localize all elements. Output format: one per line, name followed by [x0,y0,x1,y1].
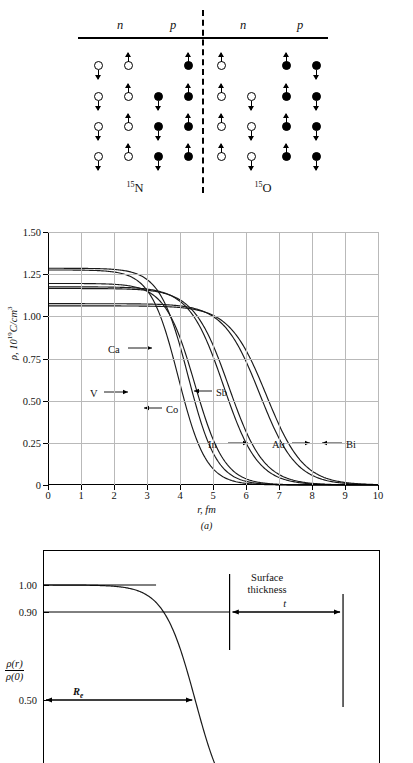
y-tick-label: 0.75 [23,353,41,364]
column-header-p-right: p [285,18,315,33]
y-tick-b [43,700,49,701]
nucleon-o15-p-2-1 [308,114,326,140]
spin-arrow-up-icon [125,52,131,57]
spin-arrow-up-icon [218,83,224,88]
nucleon-o15-n-2-0 [213,114,231,140]
spin-arrow-up-icon [283,83,289,88]
proton-icon [282,122,291,131]
neutron-icon [94,122,103,131]
x-tick-label: 10 [373,490,384,501]
nucleon-o15-n-3-1 [243,144,261,170]
spin-arrow-up-icon [283,143,289,148]
nucleon-o15-p-3-1 [308,144,326,170]
column-header-p-left: p [158,18,188,33]
spin-arrow-up-icon [185,113,191,118]
nucleon-shell-diagram: n p n p 15N 15O [0,0,413,212]
spin-arrow-down-icon [155,166,161,171]
spin-arrow-up-icon [185,83,191,88]
y-tick-label: 0.25 [23,437,41,448]
proton-icon [154,122,163,131]
spin-arrow-down-icon [95,106,101,111]
y-axis-title-b: ρ(r) ρ(0) [5,658,24,683]
gridline-vertical [378,232,379,485]
spin-arrow-down-icon [248,166,254,171]
y-axis-title-b-den: ρ(0) [6,671,23,682]
gridline-horizontal [48,316,378,317]
panel-a-caption: (a) [0,520,413,531]
curve-label-Ca: Ca [108,344,120,355]
proton-icon [312,61,321,70]
y-tick-label: 0 [36,480,41,491]
proton-icon [184,61,193,70]
x-tick-label: 9 [342,490,347,501]
y-tick-label-b: 0.50 [19,695,37,706]
charge-density-chart: ρ, 1019C/cm3 CaVCoSbInAuBi 0123456789100… [0,212,413,540]
nucleon-n15-n-0-1 [120,53,138,79]
curve-label-Sb: Sb [216,387,227,398]
neutron-icon [217,61,226,70]
nucleon-o15-p-3-0 [278,144,296,170]
spin-arrow-up-icon [283,52,289,57]
curve-label-Au: Au [272,439,285,450]
proton-icon [184,152,193,161]
neutron-icon [217,92,226,101]
isotope-label-n15: 15N [110,180,160,196]
y-tick [43,485,48,486]
proton-icon [184,122,193,131]
spin-arrow-down-icon [95,166,101,171]
gridline-horizontal [48,359,378,360]
y-tick-label-b: 0.90 [19,607,37,618]
neutron-icon [247,122,256,131]
x-tick-label: 7 [276,490,281,501]
isotope-label-o15: 15O [238,180,288,196]
nucleon-n15-p-2-0 [150,114,168,140]
nucleon-n15-p-0-1 [180,53,198,79]
proton-icon [282,152,291,161]
nucleon-n15-p-3-1 [180,144,198,170]
spin-arrow-up-icon [218,113,224,118]
nucleon-n15-n-1-1 [120,84,138,110]
spin-arrow-up-icon [125,83,131,88]
neutron-icon [94,152,103,161]
spin-arrow-down-icon [313,136,319,141]
curve-label-In: In [208,439,217,450]
x-tick-label: 1 [78,490,83,501]
y-tick [43,232,48,233]
curve-label-Co: Co [166,404,178,415]
neutron-icon [124,61,133,70]
nucleon-n15-p-2-1 [180,114,198,140]
neutron-icon [217,122,226,131]
x-tick-label: 5 [210,490,215,501]
gridline-horizontal [48,401,378,402]
plot-area-a: CaVCoSbInAuBi 01234567891000.250.500.751… [48,232,378,485]
surface-thickness-line2: thickness [248,584,287,595]
nucleon-n15-n-3-0 [90,144,108,170]
surface-thickness-line1: Surface [251,572,283,583]
spin-arrow-down-icon [155,136,161,141]
isotope-symbol-o15: O [262,181,271,195]
y-tick [43,359,48,360]
proton-icon [312,92,321,101]
y-tick [43,401,48,402]
spin-arrow-up-icon [218,143,224,148]
x-tick-label: 8 [309,490,314,501]
y-tick-b [43,612,49,613]
axes-frame-b [43,550,380,763]
proton-icon [184,92,193,101]
nucleon-n15-p-1-1 [180,84,198,110]
y-axis-title-a: ρ, 1019C/cm3 [6,307,19,360]
surface-thickness-label: Surface thickness [248,572,287,596]
y-tick [43,443,48,444]
nucleon-n15-p-1-0 [150,84,168,110]
y-axis-title-a-exp: 19 [6,332,14,339]
proton-icon [282,61,291,70]
x-tick-label: 2 [111,490,116,501]
spin-arrow-down-icon [313,166,319,171]
proton-icon [154,152,163,161]
y-axis-title-a-units-exp: 3 [6,307,14,311]
y-tick-label: 1.50 [23,227,41,238]
spin-arrow-up-icon [185,52,191,57]
x-tick-label: 6 [243,490,248,501]
curve-label-Bi: Bi [346,439,356,450]
nucleon-o15-p-2-0 [278,114,296,140]
